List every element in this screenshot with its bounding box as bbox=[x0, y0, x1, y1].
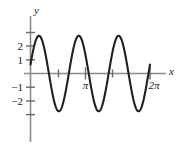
x-tick-label-pi: π bbox=[83, 79, 89, 91]
x-axis-label: x bbox=[168, 65, 174, 77]
x-tick-label-two-pi: 2π bbox=[148, 79, 160, 91]
plot-canvas: y x 2 1 −1 −2 π 2π bbox=[0, 0, 183, 145]
y-tick-label-2: 2 bbox=[18, 40, 24, 52]
sine-graph-figure: y x 2 1 −1 −2 π 2π bbox=[0, 0, 183, 145]
y-tick-label-neg1: −1 bbox=[11, 81, 23, 93]
y-tick-label-neg2: −2 bbox=[11, 95, 23, 107]
y-tick-label-1: 1 bbox=[18, 54, 24, 66]
y-axis-label: y bbox=[33, 4, 39, 16]
